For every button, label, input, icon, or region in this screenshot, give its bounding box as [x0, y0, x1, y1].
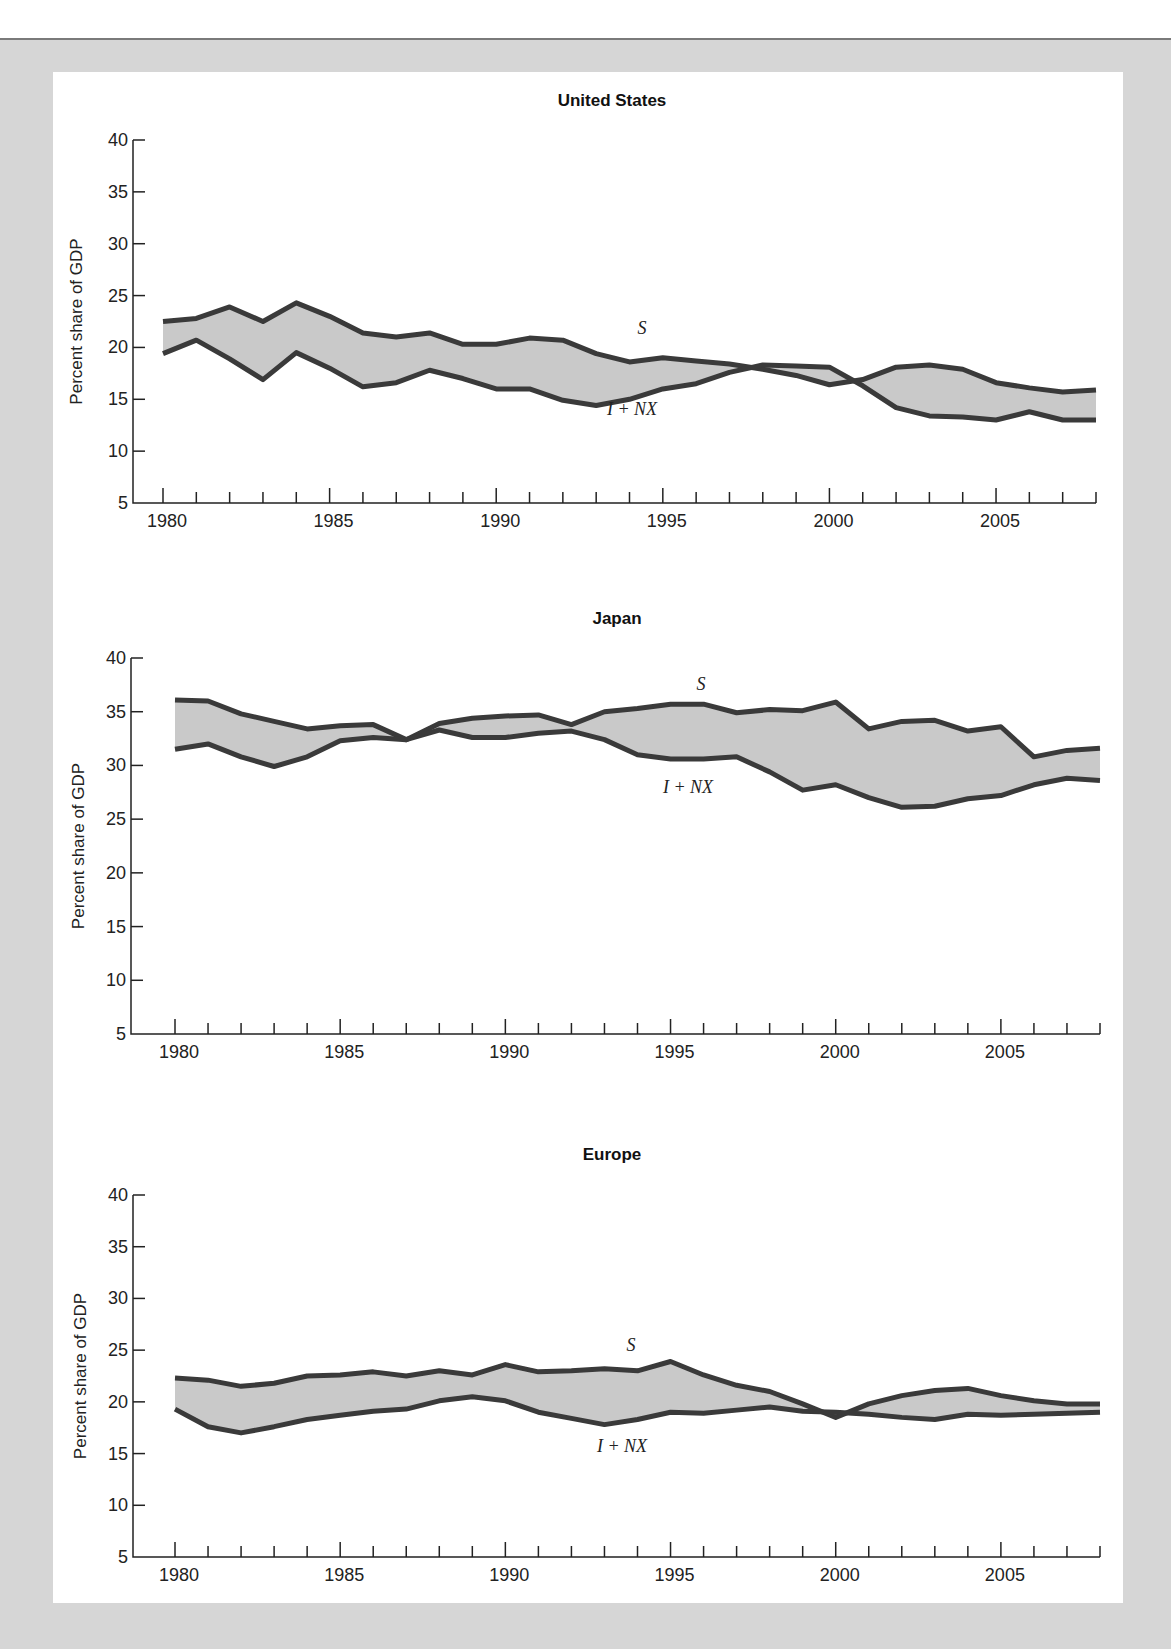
- x-tick-label: 1990: [489, 1565, 529, 1585]
- series-s-label: S: [638, 318, 647, 338]
- y-tick-label: 10: [108, 1495, 128, 1515]
- series-i-nx-label: I + NX: [596, 1436, 648, 1456]
- y-tick-label: 20: [106, 863, 126, 883]
- y-tick-label: 30: [106, 755, 126, 775]
- y-tick-label: 15: [108, 389, 128, 409]
- x-tick-label: 2000: [820, 1565, 860, 1585]
- figure-charts: United StatesPercent share of GDP5101520…: [0, 0, 1171, 1649]
- x-tick-label: 2005: [985, 1042, 1025, 1062]
- chart-europe: EuropePercent share of GDP51015202530354…: [71, 1145, 1100, 1585]
- y-tick-label: 25: [108, 286, 128, 306]
- y-tick-label: 25: [108, 1340, 128, 1360]
- chart-title: United States: [558, 91, 667, 110]
- y-tick-label: 5: [116, 1024, 126, 1044]
- y-tick-label: 5: [118, 1547, 128, 1567]
- x-tick-label: 1990: [489, 1042, 529, 1062]
- chart-title: Japan: [592, 609, 641, 628]
- y-tick-label: 35: [106, 702, 126, 722]
- y-axis-label: Percent share of GDP: [71, 1293, 90, 1459]
- x-tick-label: 2005: [985, 1565, 1025, 1585]
- series-s-label: S: [697, 674, 706, 694]
- y-tick-label: 40: [106, 648, 126, 668]
- y-tick-label: 15: [106, 917, 126, 937]
- x-tick-label: 1980: [159, 1042, 199, 1062]
- series-i-nx-label: I + NX: [662, 777, 714, 797]
- y-tick-label: 15: [108, 1444, 128, 1464]
- y-axis-label: Percent share of GDP: [69, 763, 88, 929]
- x-tick-label: 2000: [813, 511, 853, 531]
- chart-title: Europe: [583, 1145, 642, 1164]
- y-tick-label: 5: [118, 493, 128, 513]
- y-tick-label: 40: [108, 130, 128, 150]
- series-i-nx-label: I + NX: [606, 399, 658, 419]
- x-tick-label: 1995: [655, 1565, 695, 1585]
- x-tick-label: 1980: [147, 511, 187, 531]
- y-tick-label: 20: [108, 337, 128, 357]
- chart-us: United StatesPercent share of GDP5101520…: [67, 91, 1096, 531]
- x-tick-label: 1985: [324, 1042, 364, 1062]
- x-tick-label: 2005: [980, 511, 1020, 531]
- x-tick-label: 1980: [159, 1565, 199, 1585]
- series-s-label: S: [627, 1335, 636, 1355]
- x-tick-label: 2000: [820, 1042, 860, 1062]
- y-tick-label: 10: [106, 970, 126, 990]
- y-tick-label: 25: [106, 809, 126, 829]
- y-tick-label: 40: [108, 1185, 128, 1205]
- chart-japan: JapanPercent share of GDP510152025303540…: [69, 609, 1100, 1062]
- x-tick-label: 1990: [480, 511, 520, 531]
- y-tick-label: 10: [108, 441, 128, 461]
- y-tick-label: 20: [108, 1392, 128, 1412]
- y-tick-label: 35: [108, 182, 128, 202]
- x-tick-label: 1985: [324, 1565, 364, 1585]
- x-tick-label: 1985: [314, 511, 354, 531]
- y-axis-label: Percent share of GDP: [67, 238, 86, 404]
- y-tick-label: 30: [108, 1288, 128, 1308]
- x-tick-label: 1995: [647, 511, 687, 531]
- y-tick-label: 30: [108, 234, 128, 254]
- y-tick-label: 35: [108, 1237, 128, 1257]
- x-tick-label: 1995: [655, 1042, 695, 1062]
